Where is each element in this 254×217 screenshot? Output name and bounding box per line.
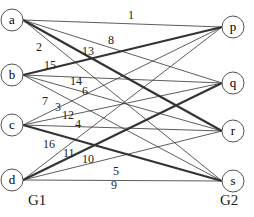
svg-text:q: q [230,75,237,90]
edge-weight-label: 16 [43,137,55,152]
edge-weight-label: 13 [82,44,94,59]
edge-a-p [23,20,222,27]
edge-weight-label: 1 [128,8,134,23]
edge-weight-label: 8 [108,33,114,48]
graph-canvas: abcdpqrs [0,0,254,217]
bipartite-graph: abcdpqrs G1 G2 12813151467312416111059 [0,0,254,217]
svg-text:a: a [9,12,15,27]
edge-weight-label: 12 [62,108,74,123]
edge-weight-label: 9 [111,178,117,193]
edge-weight-label: 15 [44,58,56,73]
edge-weight-label: 6 [82,84,88,99]
svg-text:b: b [9,67,16,82]
edge-weight-label: 4 [75,117,81,132]
edge-weight-label: 7 [42,94,48,109]
svg-text:s: s [230,173,235,188]
edge-weight-label: 5 [113,164,119,179]
svg-text:r: r [231,123,236,138]
svg-text:c: c [9,117,15,132]
group-label-g1: G1 [28,192,46,209]
edge-weight-label: 11 [63,146,75,161]
edge-weight-label: 2 [36,40,42,55]
edge-a-r [23,20,222,131]
svg-text:d: d [9,172,16,187]
edge-d-s [23,180,222,181]
group-label-g2: G2 [220,192,238,209]
edge-c-r [23,125,222,131]
edge-weight-label: 3 [55,100,61,115]
edge-weight-label: 10 [82,152,94,167]
svg-text:p: p [230,19,237,34]
edge-weight-label: 14 [70,74,82,89]
